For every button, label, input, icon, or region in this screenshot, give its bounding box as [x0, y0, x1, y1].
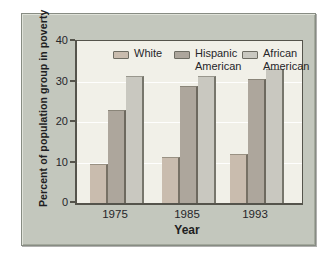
y-tick-mark	[70, 120, 75, 122]
y-tick-mark	[70, 201, 75, 203]
y-tick-label-10: 10	[22, 155, 68, 169]
y-tick-label-30: 30	[22, 74, 68, 88]
y-tick-label-40: 40	[22, 33, 68, 47]
bar-1985-african-american	[198, 76, 216, 203]
page: { "figure": { "frame_background": "#c3c7…	[0, 0, 332, 263]
african-american-series-swatch-icon	[242, 51, 258, 59]
plot-area: White Hispanic American African American	[75, 40, 303, 205]
x-tick-label-1985: 1985	[157, 208, 217, 220]
hispanic-american-series-swatch-icon	[174, 51, 190, 59]
figure-frame: Percent of population group in poverty W…	[21, 13, 316, 246]
bar-1985-white	[162, 157, 180, 203]
y-tick-mark	[70, 161, 75, 163]
legend-item-white: White	[113, 47, 162, 60]
bar-1975-african-american	[126, 76, 144, 203]
y-tick-mark	[70, 39, 75, 41]
legend-item-african-american: African American	[242, 47, 309, 72]
bar-1993-african-american	[266, 69, 284, 203]
bar-1993-white	[230, 154, 248, 203]
legend: White Hispanic American African American	[77, 41, 302, 81]
x-tick-label-1993: 1993	[225, 208, 285, 220]
bar-1993-hispanic-american	[248, 79, 266, 203]
bar-1975-white	[90, 164, 108, 203]
legend-label: African American	[263, 47, 309, 72]
bar-1975-hispanic-american	[108, 110, 126, 203]
x-axis-title: Year	[147, 223, 227, 237]
legend-label: White	[134, 47, 162, 60]
bar-1985-hispanic-american	[180, 86, 198, 203]
y-tick-label-20: 20	[22, 114, 68, 128]
y-tick-mark	[70, 80, 75, 82]
white-series-swatch-icon	[113, 51, 129, 59]
y-tick-label-0: 0	[22, 195, 68, 209]
x-tick-label-1975: 1975	[85, 208, 145, 220]
